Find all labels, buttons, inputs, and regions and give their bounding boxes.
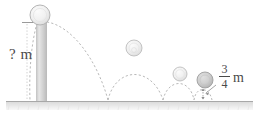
- ball-bounce-3-apex: [197, 72, 213, 88]
- drop-height-text: ? m: [9, 46, 33, 62]
- support-column: [36, 22, 47, 101]
- fraction-numerator: 3: [220, 63, 230, 75]
- fraction-denominator: 4: [220, 78, 230, 90]
- trajectory-arc-1: [47, 22, 108, 100]
- ball-drop-start: [30, 5, 50, 25]
- drop-height-label: ? m: [9, 47, 33, 62]
- figure-canvas: [0, 0, 259, 114]
- trajectory-arc-3: [163, 84, 194, 101]
- fraction-three-quarters: 3 4: [219, 63, 230, 90]
- trajectory-arc-2: [108, 75, 163, 101]
- bouncing-ball-figure: ? m 3 4 m: [0, 0, 259, 114]
- ground-hatching: [6, 102, 253, 110]
- ball-bounce-2-apex: [173, 67, 187, 81]
- bounce-height-label: 3 4 m: [219, 64, 244, 91]
- bounce-height-unit: m: [233, 71, 244, 85]
- ball-bounce-1-apex: [126, 40, 142, 56]
